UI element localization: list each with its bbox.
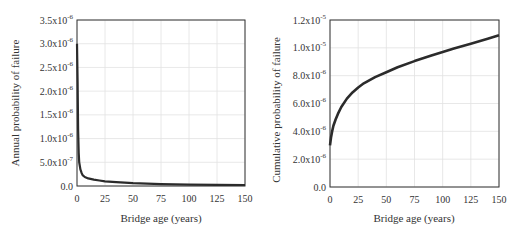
x-tick-label: 150	[492, 194, 507, 205]
y-axis-title: Annual probability of failure	[9, 40, 21, 167]
x-tick-label: 0	[328, 194, 333, 205]
y-tick-label: 1.5x10-6	[40, 107, 74, 120]
x-tick-label: 75	[410, 194, 420, 205]
y-tick-label: 1.0x10-6	[40, 131, 74, 144]
x-tick-label: 50	[128, 193, 138, 204]
y-tick-label: 2.5x10-6	[40, 60, 74, 73]
y-tick-label: 6.0x10-6	[293, 96, 327, 109]
y-tick-label: 1.0x10-5	[293, 40, 327, 53]
x-tick-label: 150	[238, 193, 253, 204]
x-tick-label: 0	[75, 193, 80, 204]
annual-probability-chart: 0.05.0x10-71.0x10-61.5x10-62.0x10-62.5x1…	[0, 0, 260, 238]
x-tick-label: 100	[435, 194, 450, 205]
y-tick-labels: 0.05.0x10-71.0x10-61.5x10-62.0x10-62.5x1…	[40, 13, 74, 192]
y-tick-label: 0.0	[61, 181, 74, 192]
x-tick-label: 125	[210, 193, 225, 204]
y-tick-label: 4.0x10-6	[293, 124, 327, 137]
x-axis-title: Bridge age (years)	[120, 212, 202, 225]
y-tick-label: 0.0	[314, 182, 327, 193]
x-tick-label: 75	[156, 193, 166, 204]
y-tick-label: 2.0x10-6	[293, 152, 327, 165]
x-axis-title: Bridge age (years)	[373, 212, 455, 225]
x-tick-label: 25	[353, 194, 363, 205]
y-tick-label: 5.0x10-7	[40, 155, 74, 168]
x-tick-label: 100	[182, 193, 197, 204]
cumulative-probability-chart: 0.02.0x10-64.0x10-66.0x10-68.0x10-61.0x1…	[260, 0, 520, 238]
y-tick-label: 8.0x10-6	[293, 68, 327, 81]
plot-grid	[77, 20, 245, 186]
x-tick-label: 125	[463, 194, 478, 205]
x-tick-labels: 0255075100125150	[328, 194, 507, 205]
y-tick-label: 3.0x10-6	[40, 36, 74, 49]
x-tick-label: 25	[100, 193, 110, 204]
y-tick-labels: 0.02.0x10-64.0x10-66.0x10-68.0x10-61.0x1…	[293, 13, 327, 193]
y-tick-label: 1.2x10-5	[293, 13, 327, 26]
y-tick-label: 3.5x10-6	[40, 13, 74, 26]
plot-grid	[330, 20, 499, 187]
y-axis-title: Cumulative probability of failure	[270, 37, 282, 183]
x-tick-labels: 0255075100125150	[75, 193, 253, 204]
y-tick-label: 2.0x10-6	[40, 84, 74, 97]
x-tick-label: 50	[381, 194, 391, 205]
